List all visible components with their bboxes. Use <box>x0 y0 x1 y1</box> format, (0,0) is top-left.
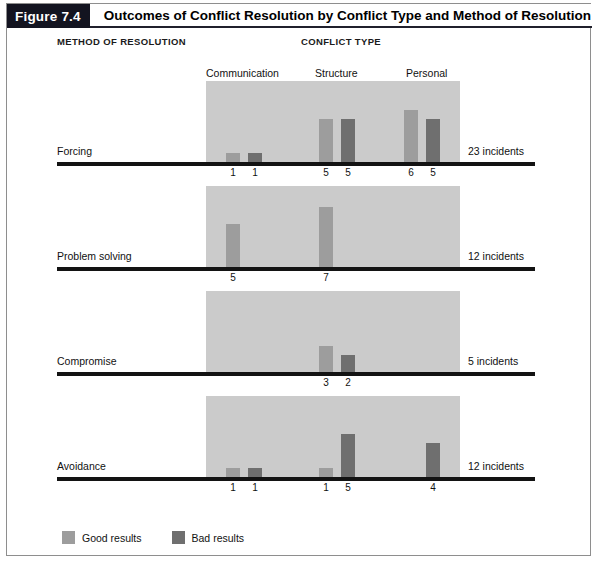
bar-value-good-structure: 5 <box>319 167 333 178</box>
bar-bad-structure <box>341 355 355 372</box>
bar-good-structure <box>319 207 333 267</box>
bar-bad-communication <box>248 468 262 477</box>
chart-panel-compromise: 32Compromise5 incidents <box>7 287 592 392</box>
bar-good-communication <box>226 224 240 267</box>
figure-number-label: Figure 7.4 <box>7 4 90 28</box>
bar-bad-personal <box>426 119 440 162</box>
bar-good-communication <box>226 153 240 162</box>
panel-baseline <box>57 372 535 376</box>
bar-bad-structure <box>341 434 355 477</box>
bar-value-bad-communication: 1 <box>248 167 262 178</box>
heading-method-of-resolution: METHOD OF RESOLUTION <box>57 36 186 47</box>
bar-value-good-personal: 6 <box>404 167 418 178</box>
bar-good-structure <box>319 119 333 162</box>
bar-bad-structure <box>341 119 355 162</box>
legend-label-bad-results: Bad results <box>192 532 245 544</box>
legend-item-good-results: Good results <box>62 531 142 544</box>
bar-value-bad-communication: 1 <box>248 482 262 493</box>
method-label-forcing: Forcing <box>57 145 92 157</box>
chart-panel-avoidance: 11154Avoidance12 incidents <box>7 392 592 497</box>
bar-value-good-communication: 5 <box>226 272 240 283</box>
bar-good-personal <box>404 110 418 162</box>
heading-conflict-type: CONFLICT TYPE <box>301 36 381 47</box>
legend-item-bad-results: Bad results <box>172 531 245 544</box>
chart-legend: Good results Bad results <box>62 531 244 544</box>
panel-baseline <box>57 267 535 271</box>
panel-plot-area <box>206 186 460 267</box>
legend-swatch-bad-icon <box>172 531 185 544</box>
bar-value-bad-structure: 5 <box>341 482 355 493</box>
incidents-count-compromise: 5 incidents <box>468 355 518 367</box>
incidents-count-avoidance: 12 incidents <box>468 460 524 472</box>
bar-value-bad-personal: 5 <box>426 167 440 178</box>
method-label-problem-solving: Problem solving <box>57 250 132 262</box>
bar-value-good-structure: 1 <box>319 482 333 493</box>
chart-panel-forcing: 115565Forcing23 incidents <box>7 77 592 182</box>
incidents-count-problem-solving: 12 incidents <box>468 250 524 262</box>
figure-frame: Figure 7.4 Outcomes of Conflict Resoluti… <box>6 3 591 556</box>
legend-swatch-good-icon <box>62 531 75 544</box>
panel-plot-area <box>206 396 460 477</box>
bar-good-communication <box>226 468 240 477</box>
bar-value-bad-structure: 2 <box>341 377 355 388</box>
panel-plot-area <box>206 291 460 372</box>
bar-value-good-communication: 1 <box>226 482 240 493</box>
panel-plot-area <box>206 81 460 162</box>
bar-value-good-structure: 7 <box>319 272 333 283</box>
chart-panel-problem-solving: 57Problem solving12 incidents <box>7 182 592 287</box>
figure-title: Outcomes of Conflict Resolution by Confl… <box>90 4 592 28</box>
bar-value-bad-personal: 4 <box>426 482 440 493</box>
bar-good-structure <box>319 346 333 372</box>
panel-baseline <box>57 477 535 481</box>
bar-bad-communication <box>248 153 262 162</box>
legend-label-good-results: Good results <box>82 532 142 544</box>
method-label-compromise: Compromise <box>57 355 117 367</box>
incidents-count-forcing: 23 incidents <box>468 145 524 157</box>
method-label-avoidance: Avoidance <box>57 460 106 472</box>
bar-bad-personal <box>426 443 440 477</box>
bar-value-good-structure: 3 <box>319 377 333 388</box>
bar-good-structure <box>319 468 333 477</box>
bar-value-good-communication: 1 <box>226 167 240 178</box>
bar-value-bad-structure: 5 <box>341 167 355 178</box>
figure-title-bar: Figure 7.4 Outcomes of Conflict Resoluti… <box>7 4 592 28</box>
panel-baseline <box>57 162 535 166</box>
